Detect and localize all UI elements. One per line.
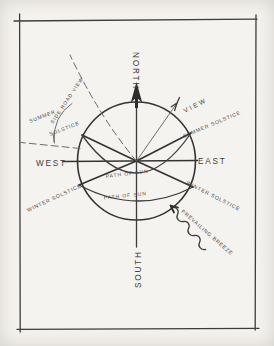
summer-solstice-line-left — [82, 135, 137, 161]
summer-solstice-right-label: SUMMER SOLSTICE — [182, 109, 242, 139]
east-west-axis — [63, 161, 198, 162]
view-annotation — [137, 98, 180, 162]
frame-top-line — [14, 19, 257, 21]
frame-bottom-line — [17, 328, 259, 329]
view-label: VIEW — [182, 96, 208, 114]
side-road-view-label: SIDE ROAD VIEW — [50, 76, 85, 124]
view-cone-lower-dashed-line — [21, 143, 80, 149]
view-line — [137, 103, 178, 161]
north-label: NORTH — [131, 52, 140, 90]
winter-solstice-right-label: WINTER SOLSTICE — [186, 180, 242, 212]
frame-left-line — [20, 14, 21, 332]
winter-solstice-left-label: WINTER SOLSTICE — [26, 182, 83, 213]
south-label: SOUTH — [134, 250, 143, 288]
site-analysis-diagram: NORTH SOUTH WEST EAST VIEW SIDE ROAD VIE… — [0, 0, 274, 346]
path-of-sun-lower-label: PATH OF SUN — [104, 191, 147, 200]
west-label: WEST — [36, 159, 67, 168]
sketch-photo: NORTH SOUTH WEST EAST VIEW SIDE ROAD VIE… — [0, 0, 274, 346]
side-road-view-cone — [21, 55, 137, 161]
east-label: EAST — [198, 157, 227, 166]
path-of-sun-upper-label: PATH OF SUN — [106, 169, 149, 179]
view-arrow-icon — [171, 98, 179, 111]
frame-right-line — [255, 15, 256, 330]
